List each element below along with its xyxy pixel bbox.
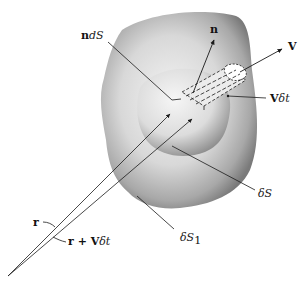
label-vdt: Vδt xyxy=(269,92,290,105)
label-ndS: ndS xyxy=(81,29,104,42)
label-delta-s1: δS1 xyxy=(180,231,201,247)
label-v: V xyxy=(287,40,297,53)
label-n: n xyxy=(210,23,218,36)
label-delta-s: δS xyxy=(258,187,273,200)
label-r-plus-vdt: r + Vδt xyxy=(68,235,111,248)
diagram-figure: n V ndS Vδt r r + Vδt δS δS1 xyxy=(0,0,304,287)
label-r: r xyxy=(33,216,39,229)
